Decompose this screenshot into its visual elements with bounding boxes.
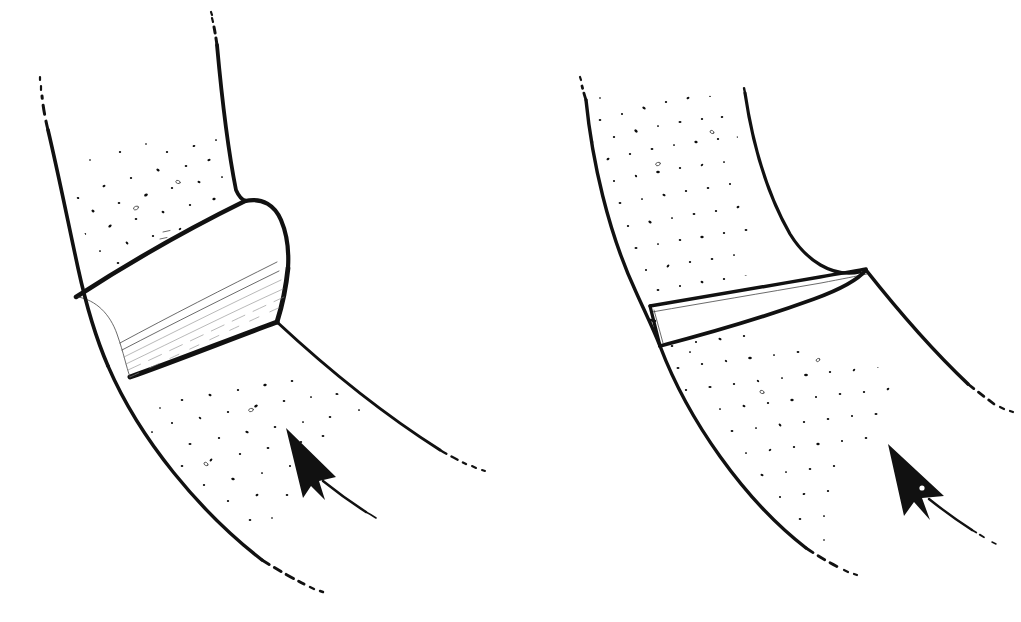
illustration-canvas: [0, 0, 1021, 622]
right-arrow-head-notch: [919, 485, 924, 490]
right-boundary-upper-right-dashed: [744, 88, 745, 93]
figure-root: Anatomical line drawing: two-panel compa…: [0, 0, 1021, 622]
right-boundary-upper-left-fade: [580, 77, 581, 80]
